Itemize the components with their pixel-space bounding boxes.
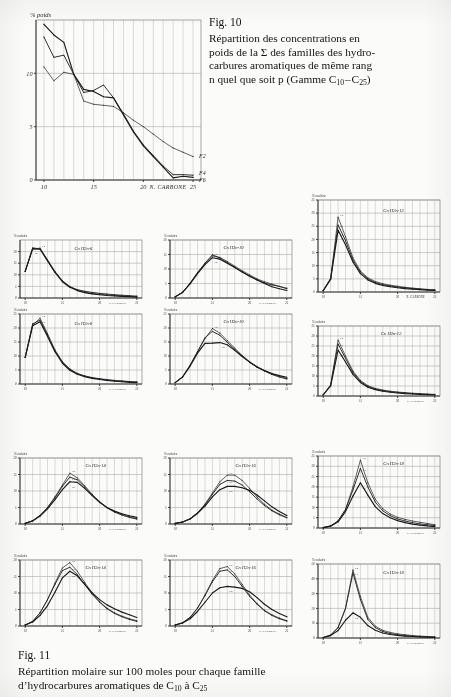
svg-text:5: 5 (15, 608, 17, 612)
svg-text:F2: F2 (228, 564, 233, 567)
svg-text:20: 20 (248, 527, 252, 531)
svg-text:0: 0 (313, 290, 315, 294)
svg-text:5: 5 (313, 277, 315, 281)
svg-text:25: 25 (433, 399, 437, 403)
svg-text:F6: F6 (354, 616, 359, 620)
chart-cnh2n-14a: 0510152010152025% molaireN. CARBONECn H2… (2, 446, 150, 538)
svg-text:10: 10 (311, 264, 315, 268)
chart-cnh2n-12b: 0510152025303510152025% molaireN. CARBON… (298, 314, 448, 410)
svg-text:F4: F4 (361, 468, 366, 472)
svg-text:0: 0 (15, 522, 17, 526)
svg-text:20: 20 (248, 387, 252, 391)
svg-text:N. CARBONE: N. CARBONE (405, 295, 425, 299)
svg-text:20: 20 (164, 326, 168, 330)
svg-text:15: 15 (61, 387, 64, 391)
chart-fig10-main: 051010152025% poidsN. CARBONEF2F4F6 (8, 6, 213, 202)
svg-text:20: 20 (14, 558, 18, 562)
svg-text:F2: F2 (339, 336, 344, 340)
svg-text:25: 25 (135, 527, 139, 531)
chart-cnh2n-16b: 0510152010152025% molaireN. CARBONECn H2… (152, 548, 300, 640)
svg-text:% molaire: % molaire (164, 308, 178, 312)
chart-cnh2n-12a: 0510152025303510152025% molaireN. CARBON… (298, 186, 448, 308)
svg-text:10: 10 (322, 641, 326, 645)
chart-cnh2n-18b: 0102030405010152025% molaireN. CARBONECn… (298, 552, 448, 652)
chart-cnh2n-16a: 0510152010152025% molaireN. CARBONECn H2… (152, 446, 300, 538)
svg-text:5: 5 (165, 506, 167, 510)
svg-text:20: 20 (248, 629, 252, 633)
svg-text:0: 0 (15, 382, 17, 386)
svg-text:15: 15 (91, 183, 97, 190)
svg-text:10: 10 (164, 354, 168, 358)
svg-text:25: 25 (285, 629, 289, 633)
svg-text:Cn H2n-10: Cn H2n-10 (223, 319, 244, 324)
svg-text:F6: F6 (198, 177, 206, 183)
svg-text:0: 0 (15, 296, 17, 300)
svg-text:5: 5 (313, 384, 315, 388)
svg-text:25: 25 (285, 387, 289, 391)
svg-text:10: 10 (174, 387, 178, 391)
svg-text:15: 15 (164, 473, 168, 477)
svg-text:% molaire: % molaire (312, 320, 326, 324)
svg-text:0: 0 (313, 636, 315, 640)
svg-text:20: 20 (312, 607, 316, 611)
svg-text:F4: F4 (213, 255, 218, 258)
svg-text:10: 10 (14, 273, 18, 277)
svg-text:10: 10 (164, 591, 168, 595)
svg-text:0: 0 (165, 296, 167, 300)
svg-text:10: 10 (26, 70, 33, 77)
svg-text:10: 10 (14, 489, 18, 493)
svg-text:F4: F4 (339, 343, 344, 347)
svg-text:F4: F4 (41, 321, 46, 324)
svg-text:20: 20 (98, 527, 102, 531)
svg-text:5: 5 (165, 282, 167, 286)
svg-text:25: 25 (433, 531, 437, 535)
svg-text:10: 10 (24, 387, 28, 391)
svg-text:F6: F6 (228, 590, 233, 593)
svg-text:0: 0 (165, 382, 167, 386)
fig11-figure-number: Fig. 11 (18, 648, 318, 662)
svg-text:% molaire: % molaire (164, 554, 178, 558)
svg-text:10: 10 (174, 527, 178, 531)
svg-text:15: 15 (359, 641, 363, 645)
svg-text:% molaire: % molaire (312, 558, 326, 562)
svg-text:10: 10 (312, 621, 316, 625)
svg-text:25: 25 (285, 527, 289, 531)
svg-text:F6: F6 (361, 486, 366, 490)
svg-text:% molaire: % molaire (14, 554, 28, 558)
svg-text:% molaire: % molaire (14, 452, 28, 456)
svg-text:5: 5 (165, 608, 167, 612)
svg-text:20: 20 (98, 387, 102, 391)
svg-text:F2: F2 (41, 315, 46, 318)
svg-text:5: 5 (29, 123, 32, 130)
svg-text:% molaire: % molaire (14, 234, 28, 238)
svg-text:10: 10 (312, 506, 316, 510)
svg-text:30: 30 (312, 464, 316, 468)
svg-text:20: 20 (396, 295, 400, 299)
svg-text:5: 5 (313, 516, 315, 520)
svg-text:10: 10 (164, 267, 168, 271)
svg-text:F6: F6 (339, 233, 344, 237)
svg-text:10: 10 (24, 629, 28, 633)
svg-text:10: 10 (174, 629, 178, 633)
svg-text:% molaire: % molaire (164, 452, 178, 456)
svg-text:20: 20 (14, 456, 18, 460)
svg-text:15: 15 (61, 629, 64, 633)
svg-text:N. CARBONE: N. CARBONE (258, 629, 277, 633)
fig10-figure-number: Fig. 10 (209, 15, 444, 29)
svg-text:15: 15 (312, 364, 316, 368)
svg-text:25: 25 (311, 224, 315, 228)
svg-text:30: 30 (312, 592, 316, 596)
svg-text:15: 15 (14, 261, 18, 265)
svg-text:20: 20 (164, 558, 168, 562)
fig10-caption-line-1: Répartition des concentrations en (209, 32, 444, 46)
fig10-caption: Fig. 10 Répartition des concentrations e… (209, 15, 444, 90)
svg-text:F2: F2 (339, 213, 344, 217)
svg-text:Cn H2n-12: Cn H2n-12 (381, 331, 402, 336)
fig11-caption-line-1: Répartition molaire sur 100 moles pour c… (18, 665, 318, 679)
svg-text:25: 25 (135, 629, 139, 633)
chart-cnh2n-10a: 0510152010152025% molaireN. CARBONECn H2… (152, 228, 300, 312)
fig11-caption-body: Répartition molaire sur 100 moles pour c… (18, 665, 318, 695)
svg-text:N. CARBONE: N. CARBONE (258, 527, 277, 531)
svg-text:5: 5 (15, 285, 17, 289)
svg-text:0: 0 (165, 624, 167, 628)
